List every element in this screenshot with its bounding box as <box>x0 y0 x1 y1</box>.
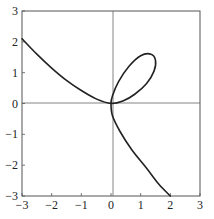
y-tick-label: 2 <box>12 35 18 49</box>
y-tick-label: 3 <box>12 4 18 18</box>
tick-labels: −3−2−10123−3−2−10123 <box>5 4 203 212</box>
y-tick-label: −1 <box>5 127 18 141</box>
y-tick-label: −3 <box>5 189 18 203</box>
x-tick-label: −2 <box>45 198 58 212</box>
y-tick-label: 1 <box>12 66 18 80</box>
x-tick-label: 3 <box>197 198 203 212</box>
x-tick-label: 2 <box>167 198 173 212</box>
chart: −3−2−10123−3−2−10123 <box>0 0 214 219</box>
x-tick-label: 1 <box>138 198 144 212</box>
y-tick-label: −2 <box>5 158 18 172</box>
y-tick-label: 0 <box>12 97 18 111</box>
x-tick-label: −1 <box>75 198 88 212</box>
curve-line <box>22 39 170 196</box>
x-tick-label: 0 <box>108 198 114 212</box>
